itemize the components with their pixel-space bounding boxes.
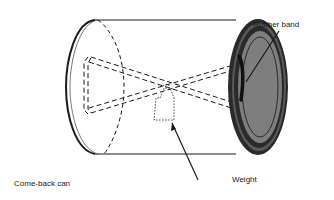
rubber-band-paths <box>84 57 250 114</box>
diagram-caption: Come-back can <box>14 179 70 188</box>
can-lid <box>238 31 282 143</box>
weight-shape <box>154 84 174 120</box>
weight-label: Weight <box>232 175 257 184</box>
can-illustration <box>0 0 334 200</box>
rubber-band-label: Rubber band <box>253 20 299 29</box>
weight-pointer <box>172 123 198 180</box>
come-back-can-diagram: Rubber band Weight Come-back can <box>0 0 334 200</box>
can-left-hidden-edge <box>98 20 124 154</box>
